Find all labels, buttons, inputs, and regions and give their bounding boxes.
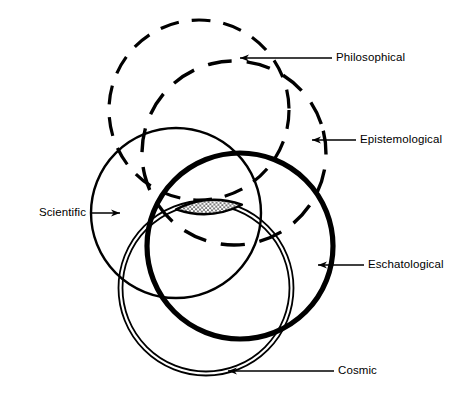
callout-cosmic: Cosmic <box>228 364 377 376</box>
label-philosophical: Philosophical <box>336 51 405 63</box>
venn-diagram-figure: Philosophical Epistemological Scientific… <box>0 0 456 420</box>
label-epistemological: Epistemological <box>360 133 442 145</box>
callout-eschatological: Eschatological <box>318 258 444 270</box>
label-scientific: Scientific <box>39 206 86 218</box>
callout-philosophical: Philosophical <box>240 51 405 63</box>
callout-scientific: Scientific <box>39 206 120 218</box>
circle-philosophical <box>109 20 289 200</box>
circle-cosmic-outer <box>119 201 294 376</box>
label-cosmic: Cosmic <box>338 364 377 376</box>
label-eschatological: Eschatological <box>368 258 444 270</box>
callout-epistemological: Epistemological <box>312 133 442 145</box>
diagram-canvas: Philosophical Epistemological Scientific… <box>0 0 456 420</box>
common-intersection-lens <box>176 198 243 217</box>
